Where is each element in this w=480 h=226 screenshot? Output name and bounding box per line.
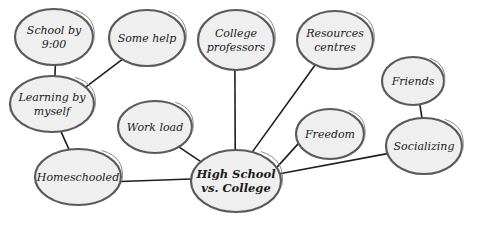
node-socializing: Socializing [386,118,463,174]
edge-homeschooled-to-center [120,179,191,182]
node-label-line: Some help [118,32,177,45]
node-label: Freedom [304,128,355,141]
node-label-line: 9:00 [42,38,67,51]
node-label-line: Learning by [17,91,86,104]
node-label: Socializing [394,140,455,153]
node-label-line: centres [314,41,356,54]
node-label-line: myself [34,105,72,118]
node-label: Resourcescentres [305,27,364,54]
node-center: High Schoolvs. College [191,150,283,212]
edge-some-help-to-learning-by-myself [86,59,123,87]
edge-school-by-900-to-learning-by-myself [55,65,56,76]
bubble-shape [10,76,94,132]
node-label-line: College [215,27,258,40]
node-label: Friends [391,75,435,88]
bubble-shape [15,9,93,65]
edge-work-load-to-center [179,147,201,162]
node-label-line: Resources [305,27,364,40]
node-label-line: Friends [391,75,435,88]
edge-friends-to-socializing [420,104,422,118]
node-resources-centres: Resourcescentres [297,11,374,69]
node-label-line: Freedom [304,128,355,141]
concept-map: High Schoolvs. CollegeSchool by9:00Some … [0,0,480,226]
node-college-professors: Collegeprofessors [198,10,275,70]
node-label-line: professors [207,41,266,54]
node-work-load: Work load [118,101,193,153]
node-label-line: Homeschooled [36,171,119,184]
node-label: High Schoolvs. College [195,167,276,195]
node-some-help: Some help [109,10,186,66]
node-label-line: Work load [127,121,183,134]
node-freedom: Freedom [296,109,365,159]
node-label-line: School by [27,24,82,37]
node-label-line: vs. College [201,181,270,195]
node-friends: Friends [382,57,445,105]
bubble-shape [297,11,373,69]
node-learning-by-myself: Learning bymyself [10,76,95,132]
node-homeschooled: Homeschooled [35,149,123,205]
node-label-line: Socializing [394,140,455,153]
edge-learning-by-myself-to-homeschooled [61,131,69,149]
node-label: Work load [127,121,183,134]
node-label: Collegeprofessors [207,27,266,54]
nodes-layer: High Schoolvs. CollegeSchool by9:00Some … [10,9,463,212]
bubble-shape [198,10,274,70]
node-label: Some help [118,32,177,45]
node-school-by-900: School by9:00 [15,9,94,65]
edge-freedom-to-center [277,143,299,167]
node-label-line: High School [195,167,276,181]
node-label: Homeschooled [36,171,119,184]
